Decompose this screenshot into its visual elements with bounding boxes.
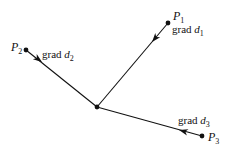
diagram-canvas: P1 grad d1 P2 grad d2 P3 grad d3 [0,0,229,152]
grad-label-d3: grad d3 [178,114,210,129]
point-p3-dot [200,134,205,139]
grad-label-d1: grad d1 [172,23,204,38]
point-p1-dot [166,21,171,26]
edges [26,23,202,136]
point-p2-dot [24,48,29,53]
gradient-diagram: P1 grad d1 P2 grad d2 P3 grad d3 [0,0,229,152]
center-point-dot [95,105,100,110]
edge-center-to-p1 [97,23,168,107]
labels: P1 grad d1 P2 grad d2 P3 grad d3 [10,9,219,146]
grad-label-d2: grad d2 [42,48,74,63]
point-label-p2: P2 [10,40,22,56]
point-label-p3: P3 [207,130,219,146]
grad-d2-arrowhead-icon [33,54,42,62]
